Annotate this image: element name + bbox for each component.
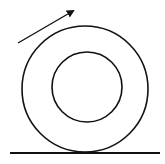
arrow-up-right-icon — [18, 11, 73, 43]
diagram-canvas — [0, 0, 165, 164]
outer-circle — [22, 26, 148, 152]
inner-circle — [52, 52, 122, 122]
ring-on-surface-diagram — [0, 0, 165, 164]
